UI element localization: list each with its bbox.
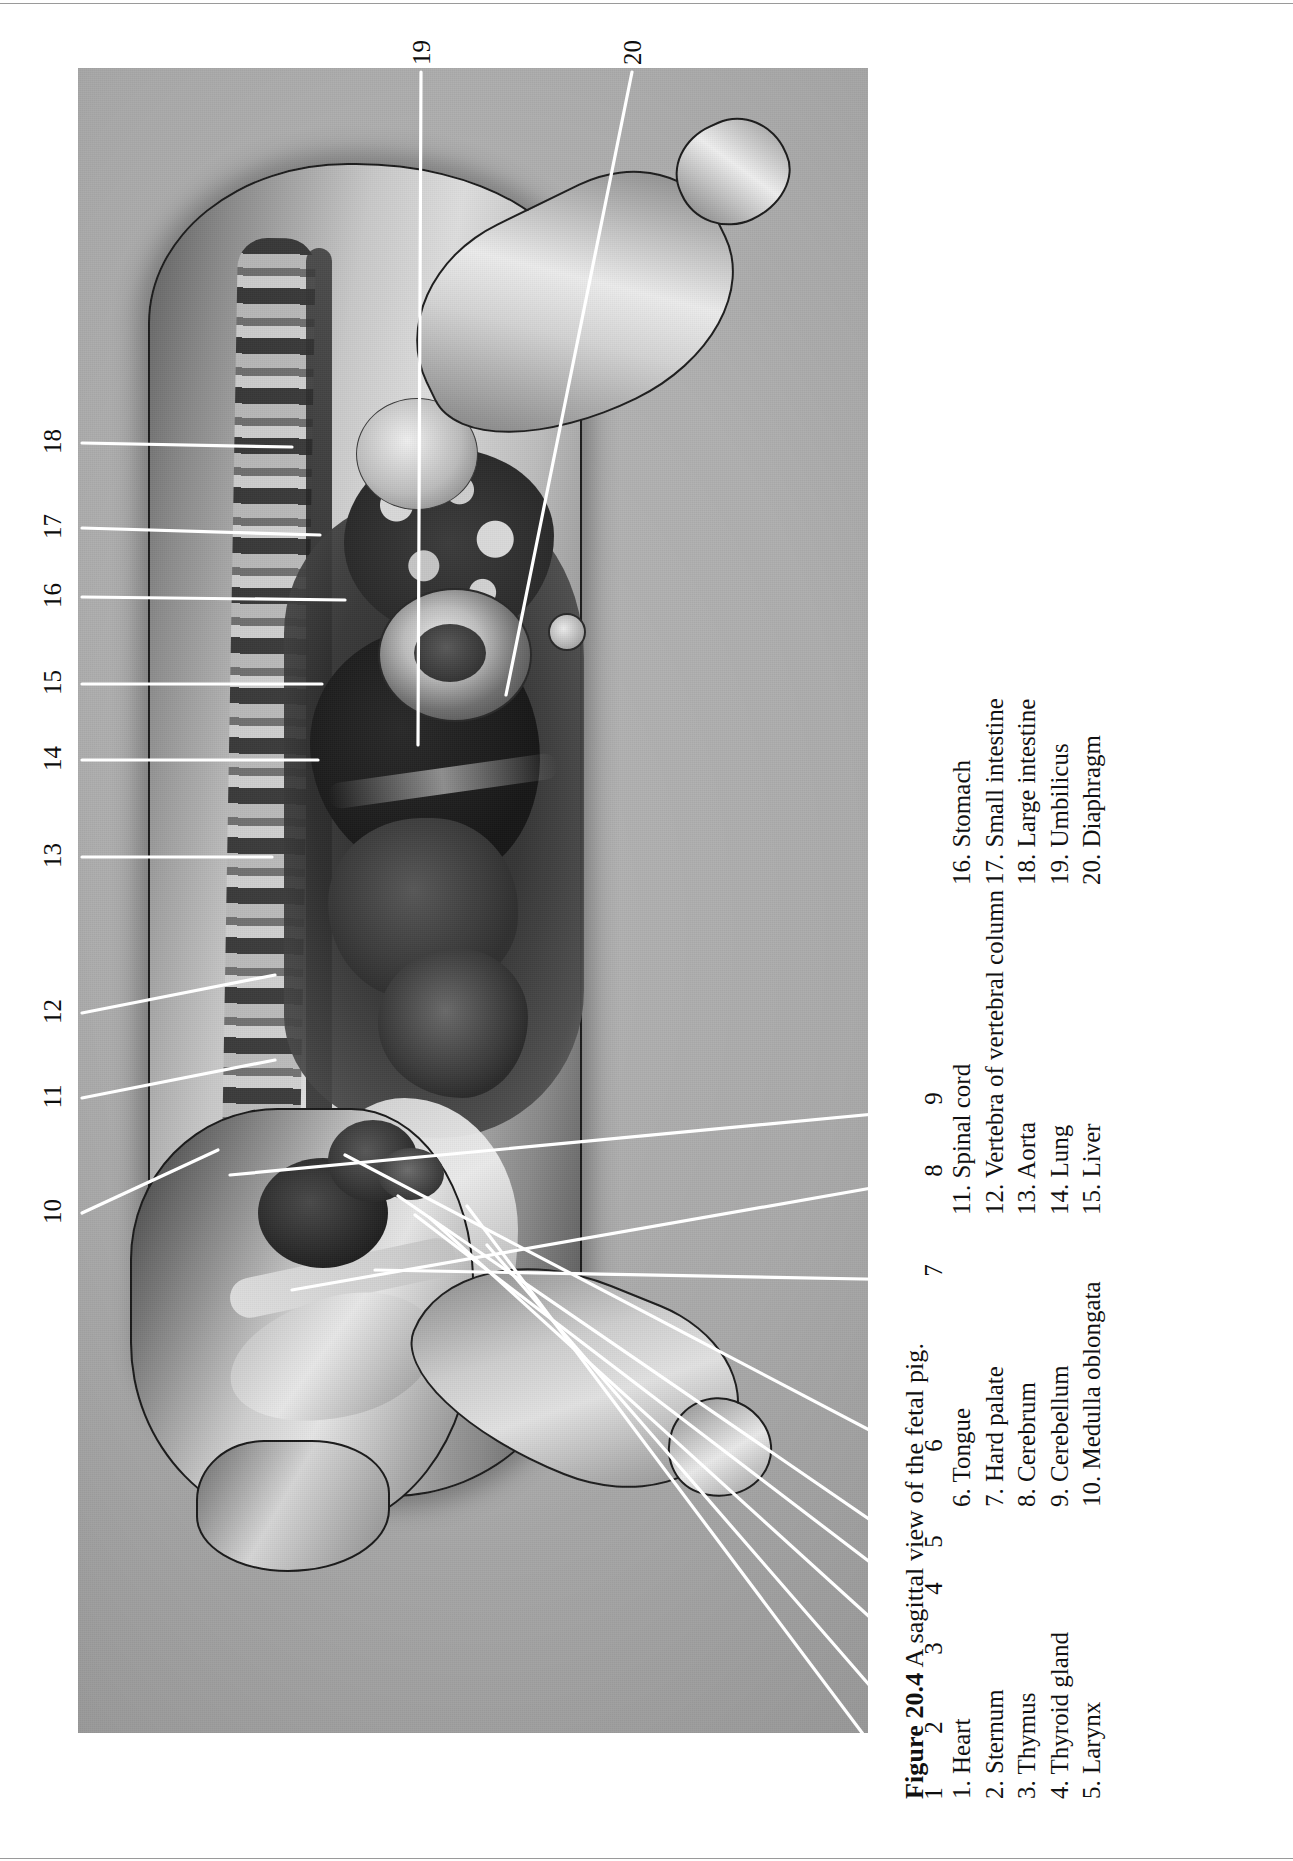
legend-item-number: 4. [1046,1780,1073,1799]
legend-item-11: 11. Spinal cord [946,885,979,1215]
legend-item-number: 1. [948,1780,975,1799]
legend-item-number: 3. [1013,1780,1040,1799]
legend-item-number: 9. [1046,1488,1073,1507]
legend-column-4: 16. Stomach17. Small intestine18. Large … [946,593,1109,885]
legend-item-number: 10. [1078,1476,1105,1507]
legend-item-14: 14. Lung [1044,885,1077,1215]
legend-item-label: Lung [1046,1125,1073,1184]
legend-item-17: 17. Small intestine [979,593,1012,885]
figure-caption-text: A sagittal view of the fetal pig. [900,1343,929,1668]
legend-item-number: 6. [948,1488,975,1507]
legend-item-label: Aorta [1013,1122,1040,1184]
legend-item-number: 16. [948,854,975,885]
legend-item-4: 4. Thyroid gland [1044,1507,1077,1799]
legend-item-label: Stomach [948,760,975,854]
figure-number: Figure 20.4 [900,1673,929,1799]
legend-item-3: 3. Thymus [1011,1507,1044,1799]
figure-caption-block: Figure 20.4 A sagittal view of the fetal… [0,0,1293,1861]
legend-item-9: 9. Cerebellum [1044,1215,1077,1507]
legend-item-label: Liver [1078,1123,1105,1183]
legend-column-3: 11. Spinal cord12. Vertebra of vertebral… [946,885,1109,1215]
figure-legend: 1. Heart2. Sternum3. Thymus4. Thyroid gl… [946,39,1109,1799]
legend-item-number: 12. [981,1184,1008,1215]
legend-item-number: 14. [1046,1184,1073,1215]
legend-item-8: 8. Cerebrum [1011,1215,1044,1507]
legend-item-15: 15. Liver [1076,885,1109,1215]
legend-item-5: 5. Larynx [1076,1507,1109,1799]
legend-item-6: 6. Tongue [946,1215,979,1507]
legend-item-number: 5. [1078,1780,1105,1799]
legend-column-2: 6. Tongue7. Hard palate8. Cerebrum9. Cer… [946,1215,1109,1507]
legend-item-label: Umbilicus [1046,743,1073,853]
legend-item-label: Tongue [948,1408,975,1488]
legend-item-19: 19. Umbilicus [1044,593,1077,885]
legend-item-number: 13. [1013,1184,1040,1215]
legend-item-7: 7. Hard palate [979,1215,1012,1507]
legend-item-label: Heart [948,1718,975,1780]
legend-item-1: 1. Heart [946,1507,979,1799]
legend-item-label: Large intestine [1013,699,1040,854]
legend-item-number: 2. [981,1780,1008,1799]
legend-item-number: 19. [1046,854,1073,885]
legend-item-label: Spinal cord [948,1064,975,1185]
legend-item-12: 12. Vertebra of vertebral column [979,885,1012,1215]
legend-item-13: 13. Aorta [1011,885,1044,1215]
legend-item-18: 18. Large intestine [1011,593,1044,885]
legend-item-16: 16. Stomach [946,593,979,885]
legend-item-number: 15. [1078,1184,1105,1215]
legend-item-2: 2. Sternum [979,1507,1012,1799]
figure-caption: Figure 20.4 A sagittal view of the fetal… [900,39,930,1799]
legend-item-label: Vertebra of vertebral column [981,890,1008,1184]
legend-item-label: Larynx [1078,1702,1105,1780]
legend-item-number: 8. [1013,1488,1040,1507]
legend-item-number: 7. [981,1488,1008,1507]
legend-item-number: 11. [948,1185,975,1215]
legend-item-label: Hard palate [981,1366,1008,1488]
legend-item-number: 18. [1013,854,1040,885]
legend-item-label: Small intestine [981,698,1008,854]
legend-item-number: 20. [1078,854,1105,885]
legend-item-10: 10. Medulla oblongata [1076,1215,1109,1507]
legend-item-label: Medulla oblongata [1078,1281,1105,1475]
legend-item-number: 17. [981,854,1008,885]
legend-item-label: Thymus [1013,1693,1040,1781]
legend-item-label: Cerebrum [1013,1382,1040,1488]
legend-item-label: Sternum [981,1689,1008,1780]
legend-item-label: Thyroid gland [1046,1632,1073,1780]
legend-item-label: Cerebellum [1046,1365,1073,1488]
legend-item-20: 20. Diaphragm [1076,593,1109,885]
legend-column-1: 1. Heart2. Sternum3. Thymus4. Thyroid gl… [946,1507,1109,1799]
legend-item-label: Diaphragm [1078,735,1105,854]
